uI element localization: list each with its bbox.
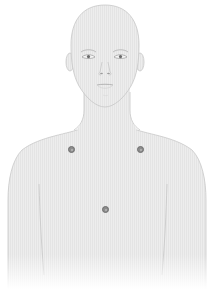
- electrode-left-shoulder: [68, 146, 75, 153]
- torso-illustration: [0, 0, 214, 289]
- body-diagram: [0, 0, 214, 289]
- electrode-right-shoulder: [137, 146, 144, 153]
- electrode-center-chest: [102, 206, 109, 213]
